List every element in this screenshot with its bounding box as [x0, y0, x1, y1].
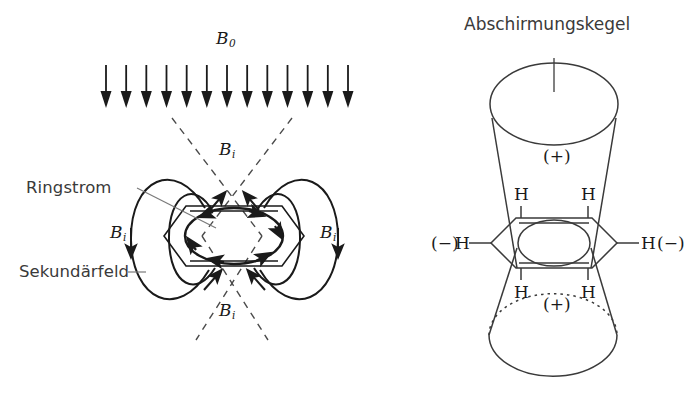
b0-arrow-shaft — [145, 65, 147, 91]
b0-arrow-shaft — [105, 65, 107, 91]
b0-arrow-head — [302, 91, 313, 108]
abschirmungskegel-title: Abschirmungskegel — [464, 14, 630, 34]
b0-arrow-head — [282, 91, 293, 108]
ring-current-arrowheads — [191, 211, 279, 262]
bi-label-bottom: Bi — [219, 300, 235, 320]
b0-arrow-shaft — [246, 65, 248, 91]
ring-current-ellipse — [185, 208, 283, 264]
b0-arrow-shaft — [166, 65, 168, 91]
figure-root: B0 Bi Bi Bi Bi Ringstrom Sekundärfeld Ab… — [0, 0, 692, 417]
b0-arrow-head — [343, 91, 354, 108]
b0-arrow-head — [181, 91, 192, 108]
h-lower-right-label: H — [581, 282, 596, 302]
h-right-edge-label: H — [641, 233, 656, 253]
b0-arrow-shaft — [287, 65, 289, 91]
b0-arrow-head — [262, 91, 273, 108]
right-edge-sign: (−) — [657, 233, 685, 253]
b0-arrow-shaft — [206, 65, 208, 91]
b0-label: B0 — [216, 28, 235, 48]
secondary-field-lines — [131, 180, 338, 299]
b0-arrow-shaft — [327, 65, 329, 91]
b0-arrow-shaft — [266, 65, 268, 91]
b0-arrow-head — [161, 91, 172, 108]
b0-arrow-shaft — [186, 65, 188, 91]
lower-cone-sign: (+) — [543, 294, 571, 314]
sekundaerfeld-label: Sekundärfeld — [19, 262, 129, 281]
bi-label-right: Bi — [320, 222, 336, 242]
b0-arrow-head — [141, 91, 152, 108]
ch-bonds-right — [469, 206, 639, 280]
h-upper-left-label: H — [514, 184, 529, 204]
bi-label-left: Bi — [110, 222, 126, 242]
b0-arrow-shaft — [125, 65, 127, 91]
b0-arrow-head — [201, 91, 212, 108]
upper-cone-sign: (+) — [543, 146, 571, 166]
b0-arrow-head — [242, 91, 253, 108]
b0-arrow-head — [222, 91, 233, 108]
b0-arrow-shaft — [226, 65, 228, 91]
b0-arrow-shaft — [307, 65, 309, 91]
b0-arrow-field — [101, 65, 354, 108]
b0-arrow-shaft — [347, 65, 349, 91]
ringstrom-label: Ringstrom — [26, 178, 112, 197]
b0-arrow-head — [121, 91, 132, 108]
h-lower-left-label: H — [514, 282, 529, 302]
h-upper-right-label: H — [581, 184, 596, 204]
b0-arrow-head — [322, 91, 333, 108]
b0-arrow-head — [101, 91, 112, 108]
bi-label-top: Bi — [219, 139, 235, 159]
figure-artwork — [0, 0, 692, 417]
h-left-edge-label: H — [455, 233, 470, 253]
